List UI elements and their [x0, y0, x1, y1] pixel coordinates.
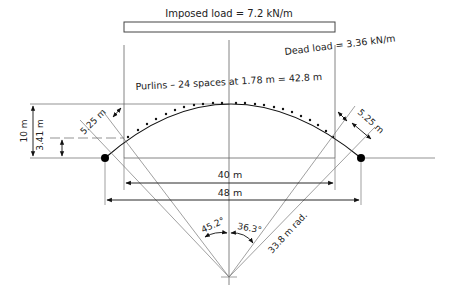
right-support	[357, 154, 365, 162]
dead-load-label: Dead load = 3.36 kN/m	[284, 32, 396, 57]
angle-right-label: 36.3°	[237, 221, 263, 235]
height-total-label: 10 m	[19, 119, 29, 142]
imposed-load-box	[124, 22, 335, 32]
angle-left-arc	[205, 233, 227, 238]
arch-diagram: Imposed load = 7.2 kN/m Dead load = 3.36…	[0, 0, 450, 299]
purlin-markers	[127, 102, 334, 138]
offset-left-label: 5.25 m	[78, 107, 107, 136]
right-wall	[229, 45, 335, 158]
height-support-label: 3.41 m	[35, 119, 45, 151]
offset-left-dimension	[113, 108, 121, 117]
angle-left-label: 45.2°	[200, 215, 226, 234]
angle-right-arc	[231, 233, 253, 243]
left-wall	[124, 45, 229, 158]
left-support	[101, 154, 109, 162]
offset-right-dimension-a	[338, 112, 347, 121]
span-inner-label: 40 m	[218, 169, 242, 180]
imposed-load-label: Imposed load = 7.2 kN/m	[165, 8, 293, 19]
span-outer-label: 48 m	[218, 187, 242, 198]
